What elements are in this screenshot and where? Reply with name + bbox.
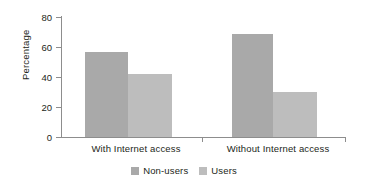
legend-item-users: Users xyxy=(199,166,237,176)
legend-label-non-users: Non-users xyxy=(143,166,188,176)
bar-without-internet-non-users xyxy=(232,34,273,138)
legend-swatch-icon-users xyxy=(199,167,207,175)
bar-with-internet-users xyxy=(128,74,172,137)
bar-chart: Percentage 80 60 40 20 0 With Internet a… xyxy=(0,0,368,187)
x-tick-mark-group-divider xyxy=(202,138,203,142)
bar-with-internet-non-users xyxy=(85,52,128,138)
y-tick-label-60: 60 xyxy=(10,43,52,53)
x-tick-mark-right-end xyxy=(345,138,346,142)
y-axis-line xyxy=(61,16,62,138)
bar-without-internet-users xyxy=(273,92,317,137)
legend-item-non-users: Non-users xyxy=(131,166,188,176)
y-tick-label-40: 40 xyxy=(10,73,52,83)
x-category-label-with-internet-access: With Internet access xyxy=(68,144,204,154)
legend-label-users: Users xyxy=(211,166,237,176)
y-tick-label-20: 20 xyxy=(10,103,52,113)
x-category-label-without-internet-access: Without Internet access xyxy=(204,144,352,154)
y-tick-label-0: 0 xyxy=(10,133,52,143)
x-axis-line xyxy=(61,137,346,138)
legend-swatch-icon-non-users xyxy=(131,167,139,175)
legend: Non-users Users xyxy=(0,166,368,176)
y-tick-label-80: 80 xyxy=(10,13,52,23)
y-axis-title: Percentage xyxy=(21,10,31,100)
